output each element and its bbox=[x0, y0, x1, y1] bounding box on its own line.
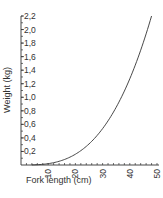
y-tick-label: 1,6 bbox=[24, 52, 36, 62]
y-tick-label: 1,2 bbox=[24, 79, 36, 89]
y-tick-label: 0,6 bbox=[24, 119, 36, 129]
x-axis-title: Fork length (cm) bbox=[26, 175, 92, 185]
y-tick-label: 0,2 bbox=[24, 146, 36, 156]
y-tick-label: 1,8 bbox=[24, 38, 36, 48]
y-tick-label: 1,0 bbox=[24, 92, 36, 102]
y-tick-label: 2,0 bbox=[24, 25, 36, 35]
y-tick-label: 0,4 bbox=[24, 133, 36, 143]
y-axis-title: Weight (kg) bbox=[2, 67, 12, 113]
y-axis: 0,20,40,60,81,01,21,41,61,82,02,2 bbox=[21, 11, 36, 165]
x-tick-label: 50 bbox=[152, 169, 162, 179]
x-tick-label: 30 bbox=[98, 169, 108, 179]
weight-length-chart: 0,20,40,60,81,01,21,41,61,82,02,2 102030… bbox=[0, 0, 163, 198]
y-tick-label: 2,2 bbox=[24, 11, 36, 21]
y-tick-label: 0,8 bbox=[24, 106, 36, 116]
x-tick-label: 40 bbox=[125, 169, 135, 179]
weight-curve bbox=[32, 16, 152, 165]
y-tick-label: 1,4 bbox=[24, 65, 36, 75]
